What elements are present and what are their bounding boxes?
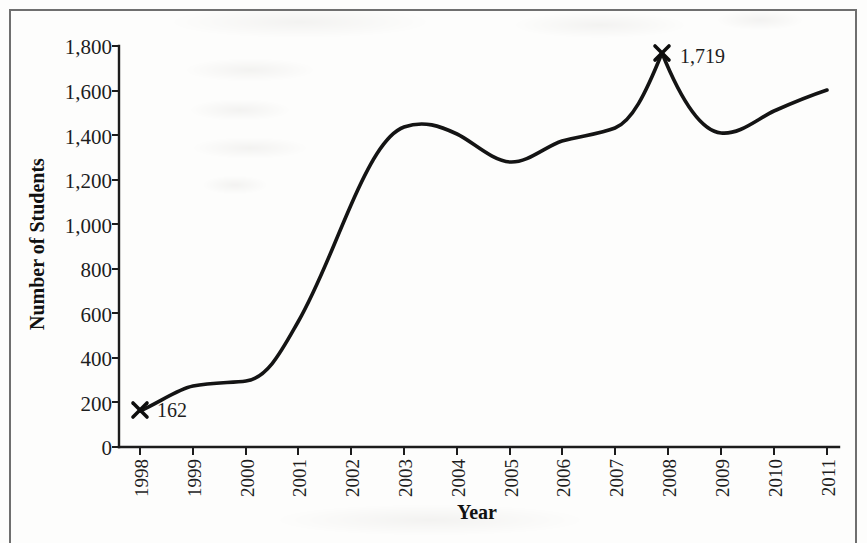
y-axis-title: Number of Students bbox=[26, 158, 48, 330]
x-tick-label: 2007 bbox=[606, 459, 627, 497]
y-tick-label: 800 bbox=[81, 258, 113, 282]
x-tick-label: 2011 bbox=[818, 459, 839, 496]
y-axis-title-text: Number of Students bbox=[26, 158, 48, 330]
x-tick-label: 1998 bbox=[131, 459, 152, 497]
y-tick-label: 1,800 bbox=[65, 35, 112, 59]
x-tick-label: 2010 bbox=[765, 459, 786, 497]
x-tick-label: 2000 bbox=[237, 459, 258, 497]
y-tick-label: 0 bbox=[102, 436, 113, 460]
y-tick-label: 1,200 bbox=[65, 169, 112, 193]
y-tick-label: 1,400 bbox=[65, 125, 112, 149]
x-tick-label: 2002 bbox=[342, 459, 363, 497]
x-axis-tick-labels: 1998 1999 2000 2001 2002 2003 2004 2005 … bbox=[131, 459, 839, 498]
x-tick-label: 2009 bbox=[712, 459, 733, 497]
y-tick-label: 1,600 bbox=[65, 80, 112, 104]
x-tick-label: 2003 bbox=[395, 459, 416, 497]
annotation-label-1998: 162 bbox=[157, 399, 187, 421]
y-tick-label: 600 bbox=[81, 303, 113, 327]
x-tick-label: 2004 bbox=[448, 459, 469, 498]
x-tick-label: 2001 bbox=[289, 459, 310, 497]
x-tick-label: 2006 bbox=[553, 459, 574, 497]
y-tick-label: 400 bbox=[81, 347, 113, 371]
x-axis-title-text: Year bbox=[457, 501, 497, 523]
x-tick-label: 2008 bbox=[659, 459, 680, 497]
x-tick-label: 2005 bbox=[501, 459, 522, 497]
y-axis-tick-labels: 1,800 1,600 1,400 1,200 1,000 800 600 40… bbox=[65, 35, 112, 460]
line-chart: 1,800 1,600 1,400 1,200 1,000 800 600 40… bbox=[0, 0, 867, 543]
chart-figure: 1,800 1,600 1,400 1,200 1,000 800 600 40… bbox=[0, 0, 867, 543]
data-series-curve bbox=[140, 53, 827, 411]
y-tick-label: 200 bbox=[81, 392, 113, 416]
y-tick-label: 1,000 bbox=[65, 214, 112, 238]
x-tick-label: 1999 bbox=[184, 459, 205, 497]
annotation-label-2008: 1,719 bbox=[680, 45, 725, 67]
annotation-marker-1998: 162 bbox=[133, 399, 187, 421]
